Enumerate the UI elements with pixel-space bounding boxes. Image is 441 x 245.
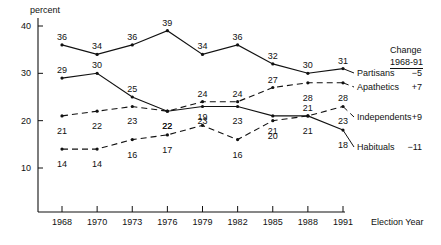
- data-point: [131, 95, 134, 98]
- data-point: [236, 138, 239, 141]
- legend-header-change: Change: [390, 46, 422, 55]
- data-label-habituals-1985: 21: [262, 127, 284, 136]
- data-label-independents-1976: 17: [156, 146, 178, 155]
- data-label-independents-1970: 14: [86, 160, 108, 169]
- data-label-apathetics-1970: 22: [86, 122, 108, 131]
- data-point: [166, 133, 169, 136]
- chart-figure: percent 10203040 19681970197319761979198…: [0, 0, 441, 245]
- data-point: [271, 86, 274, 89]
- data-label-independents-1988: 21: [297, 127, 319, 136]
- y-tick-marks: [38, 26, 43, 168]
- data-point: [201, 53, 204, 56]
- data-label-independents-1982: 16: [227, 151, 249, 160]
- legend-change-partisans: −5: [398, 69, 422, 78]
- data-label-apathetics-1982: 24: [227, 90, 249, 99]
- x-tick-label-1968: 1968: [47, 218, 77, 227]
- data-label-partisans-1970: 34: [86, 42, 108, 51]
- data-label-apathetics-1979: 24: [192, 90, 214, 99]
- data-label-partisans-1968: 36: [51, 33, 73, 42]
- data-point: [201, 100, 204, 103]
- data-label-partisans-1991: 31: [332, 57, 354, 66]
- x-tick-label-1985: 1985: [258, 218, 288, 227]
- data-label-habituals-1979: 23: [192, 117, 214, 126]
- data-point: [60, 148, 63, 151]
- data-label-independents-1968: 14: [51, 160, 73, 169]
- legend-leader-independents: [343, 107, 354, 118]
- data-label-partisans-1976: 39: [156, 19, 178, 28]
- data-point: [306, 72, 309, 75]
- legend-label-partisans: Partisans: [357, 69, 395, 78]
- x-tick-label-1976: 1976: [152, 218, 182, 227]
- x-tick-label-1970: 1970: [82, 218, 112, 227]
- x-tick-label-1982: 1982: [223, 218, 253, 227]
- data-label-apathetics-1988: 28: [297, 94, 319, 103]
- x-tick-marks: [62, 206, 343, 212]
- data-label-independents-1991: 23: [332, 117, 354, 126]
- data-label-habituals-1970: 30: [86, 61, 108, 70]
- legend-change-independents: +9: [398, 113, 422, 122]
- data-point: [131, 138, 134, 141]
- data-point: [96, 148, 99, 151]
- data-label-habituals-1991: 18: [332, 141, 354, 150]
- data-point: [60, 114, 63, 117]
- data-point: [271, 62, 274, 65]
- data-label-habituals-1988: 21: [297, 104, 319, 113]
- x-tick-label-1988: 1988: [293, 218, 323, 227]
- data-point: [96, 72, 99, 75]
- data-label-partisans-1988: 30: [297, 61, 319, 70]
- legend-label-habituals: Habituals: [357, 143, 395, 152]
- data-label-habituals-1973: 25: [121, 85, 143, 94]
- data-point: [131, 43, 134, 46]
- data-label-apathetics-1973: 23: [121, 117, 143, 126]
- x-tick-label-1973: 1973: [117, 218, 147, 227]
- x-tick-label-1991: 1991: [328, 218, 358, 227]
- legend-leader-lines: [343, 69, 354, 147]
- data-point: [201, 105, 204, 108]
- data-label-apathetics-1991: 28: [332, 94, 354, 103]
- x-axis-title: Election Year: [371, 218, 424, 227]
- data-label-apathetics-1985: 27: [262, 76, 284, 85]
- data-point: [236, 43, 239, 46]
- data-point: [236, 100, 239, 103]
- data-point: [96, 110, 99, 113]
- data-point: [236, 105, 239, 108]
- data-point: [60, 43, 63, 46]
- data-point: [271, 114, 274, 117]
- legend-leader-partisans: [343, 69, 354, 73]
- data-label-partisans-1973: 36: [121, 33, 143, 42]
- y-tick-label-40: 40: [11, 22, 31, 31]
- data-label-partisans-1985: 32: [262, 52, 284, 61]
- data-label-habituals-1968: 29: [51, 66, 73, 75]
- data-point: [271, 119, 274, 122]
- data-point: [306, 114, 309, 117]
- data-point: [60, 77, 63, 80]
- y-tick-label-30: 30: [11, 69, 31, 78]
- legend-leader-apathetics: [343, 83, 354, 87]
- data-point: [306, 81, 309, 84]
- data-point: [96, 53, 99, 56]
- x-tick-label-1979: 1979: [188, 218, 218, 227]
- data-point: [166, 29, 169, 32]
- data-label-apathetics-1968: 21: [51, 127, 73, 136]
- legend-header-period: 1968-91: [390, 58, 423, 69]
- data-label-partisans-1982: 36: [227, 33, 249, 42]
- data-label-partisans-1979: 34: [192, 42, 214, 51]
- data-label-habituals-1976: 22: [156, 122, 178, 131]
- data-label-habituals-1982: 23: [227, 117, 249, 126]
- legend-change-apathetics: +7: [398, 83, 422, 92]
- y-tick-label-20: 20: [11, 117, 31, 126]
- data-point: [166, 110, 169, 113]
- legend-label-apathetics: Apathetics: [357, 83, 399, 92]
- legend-change-habituals: −11: [398, 143, 422, 152]
- data-label-independents-1973: 16: [121, 151, 143, 160]
- y-tick-label-10: 10: [11, 164, 31, 173]
- data-point: [131, 105, 134, 108]
